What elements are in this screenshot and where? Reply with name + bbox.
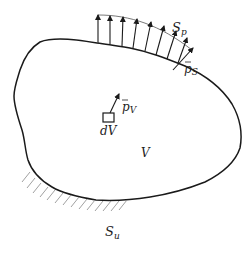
dv-label: dV	[100, 124, 118, 138]
su-label: Su	[105, 224, 120, 241]
svg-text:pV: pV	[122, 100, 138, 115]
elastic-body-diagram: Sp pS pV dV V Su	[0, 0, 252, 255]
svg-text:pS: pS	[184, 62, 198, 77]
pv-label: pV	[122, 100, 138, 115]
v-label: V	[141, 146, 151, 160]
fixed-support-hatching	[22, 172, 127, 211]
sp-label: Sp	[172, 20, 187, 37]
volume-element-box	[103, 113, 114, 122]
ps-label: pS	[184, 62, 198, 77]
body-force-arrow	[110, 94, 119, 113]
body-outline	[14, 39, 241, 200]
